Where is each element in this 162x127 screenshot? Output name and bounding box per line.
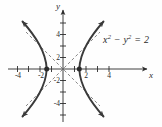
hyperbola-figure: -4 -2 2 4 4 2 -2 -4 y x x2 − y2 = 2 xyxy=(0,0,162,127)
equation-annotation: x2 − y2 = 2 xyxy=(103,33,149,45)
x-axis-label: x xyxy=(149,70,153,80)
equation-tail: = 2 xyxy=(132,34,150,45)
xtick-label-pos4: 4 xyxy=(104,71,114,80)
ytick-label-neg4: -4 xyxy=(46,99,60,108)
xtick-label-neg4: -4 xyxy=(11,71,25,80)
ytick-label-pos4: 4 xyxy=(50,30,60,39)
right-branch-upper xyxy=(79,22,103,70)
xtick-label-pos2: 2 xyxy=(81,71,91,80)
y-axis-label: y xyxy=(56,1,60,11)
ytick-label-pos2: 2 xyxy=(50,53,60,62)
left-branch-upper xyxy=(23,22,47,70)
ytick-label-neg2: -2 xyxy=(46,76,60,85)
hyperbola-plot-svg xyxy=(0,0,162,127)
equation-minus: − xyxy=(111,34,123,45)
